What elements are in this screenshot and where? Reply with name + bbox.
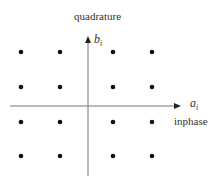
constellation-points <box>19 50 155 159</box>
constellation-point <box>58 50 63 55</box>
b-axis-label: bi <box>94 32 102 48</box>
constellation-point <box>111 120 116 125</box>
constellation-point <box>19 50 24 55</box>
constellation-point <box>150 50 155 55</box>
constellation-point <box>19 120 24 125</box>
constellation-point <box>111 85 116 90</box>
constellation-point <box>58 85 63 90</box>
inphase-arrow-icon <box>174 103 181 109</box>
constellation-point <box>19 154 24 159</box>
inphase-label: inphase <box>174 115 208 127</box>
quadrature-label: quadrature <box>74 10 121 22</box>
quadrature-arrow-icon <box>85 36 91 43</box>
constellation-diagram: quadrature bi ai inphase <box>0 0 219 184</box>
constellation-point <box>58 120 63 125</box>
constellation-point <box>111 154 116 159</box>
constellation-point <box>150 85 155 90</box>
constellation-point <box>150 154 155 159</box>
constellation-point <box>19 85 24 90</box>
constellation-point <box>150 120 155 125</box>
constellation-point <box>58 154 63 159</box>
a-axis-label: ai <box>190 96 198 112</box>
constellation-point <box>111 50 116 55</box>
